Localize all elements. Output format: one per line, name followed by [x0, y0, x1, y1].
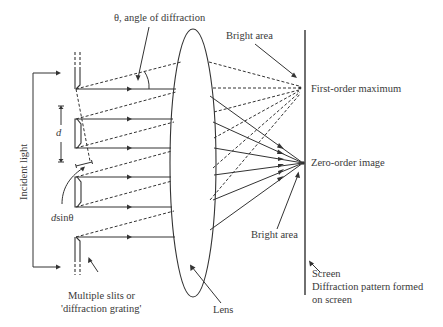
- zero-order-outgoing-rays: [210, 96, 303, 230]
- path-difference-sin: sinθ: [56, 212, 73, 223]
- zero-order-label: Zero-order image: [311, 157, 385, 169]
- bright-area-top-label: Bright area: [226, 30, 273, 42]
- diffraction-diagram: θ, angle of diffraction Bright area Firs…: [0, 0, 443, 327]
- grating-label-line1: Multiple slits or: [68, 290, 135, 302]
- incident-light-bracket: [33, 71, 61, 270]
- angle-pointer: [138, 27, 149, 78]
- lens: [170, 29, 216, 297]
- path-difference-label: dsinθ: [51, 212, 74, 224]
- bright-area-bottom-label: Bright area: [251, 229, 298, 241]
- grating-pointer: [90, 260, 98, 272]
- pattern-label-line1: Diffraction pattern formed: [312, 281, 423, 293]
- slit-spacing-label: d: [56, 127, 61, 139]
- lens-label: Lens: [213, 304, 233, 316]
- angle-arc: [144, 71, 149, 89]
- first-order-outgoing-rays: [209, 62, 300, 200]
- bright-area-bottom-pointer: [277, 175, 298, 229]
- grating-label-line2: 'diffraction grating': [61, 303, 141, 315]
- bright-area-top-pointer: [255, 44, 295, 76]
- screen-label: Screen: [312, 268, 341, 280]
- angle-label: θ, angle of diffraction: [114, 12, 205, 24]
- first-order-label: First-order maximum: [311, 83, 401, 95]
- pattern-label-line2: on screen: [312, 294, 352, 306]
- grating: [75, 52, 81, 275]
- incident-light-label: Incident light: [18, 144, 30, 200]
- path-difference-marker: [62, 160, 93, 204]
